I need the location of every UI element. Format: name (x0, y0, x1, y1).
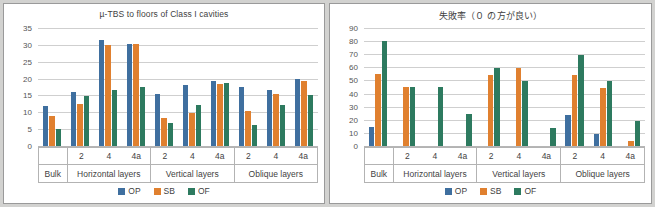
axis-group-label: Bulk (364, 164, 393, 183)
y-tick-label: 50 (349, 76, 358, 85)
y-tick-label: 90 (349, 24, 358, 33)
axis-group-label: Bulk (38, 164, 67, 183)
legend-item[interactable]: OP (118, 186, 140, 196)
y-axis-labels-right: 0102030405060708090 (330, 28, 360, 146)
bar-sb (600, 88, 606, 146)
legend-swatch-icon (188, 188, 195, 195)
bar-of (494, 68, 500, 146)
axis-sub-label: 4 (262, 147, 290, 164)
axis-sub-label: 4 (179, 147, 207, 164)
axis-sub-label: 4a (616, 147, 645, 164)
bar-sb (628, 141, 634, 147)
legend-label: OP (128, 186, 140, 196)
bar-of (280, 105, 286, 146)
y-tick-label: 0 (354, 142, 358, 151)
y-tick-label: 25 (23, 57, 32, 66)
category-axis-grouprow-right: BulkHorizontal layersVertical layersObli… (364, 164, 645, 183)
legend-label: SB (490, 186, 501, 196)
y-tick-label: 30 (23, 40, 32, 49)
axis-sub-label: 4 (95, 147, 123, 164)
y-tick-label: 0 (28, 142, 32, 151)
axis-sub-label: 4a (206, 147, 234, 164)
bar-op (211, 81, 217, 146)
bar-of (522, 81, 528, 146)
axis-sub-label: 4 (421, 147, 449, 164)
y-tick-label: 40 (349, 89, 358, 98)
legend-item[interactable]: SB (480, 186, 501, 196)
bar-of (308, 95, 314, 146)
axis-group-label: Horizontal layers (67, 164, 151, 183)
axis-sub-label: 4 (589, 147, 617, 164)
axis-sub-label (364, 147, 393, 164)
legend-swatch-icon (154, 188, 161, 195)
bar-sb (403, 87, 409, 146)
bar-groups-right (364, 28, 645, 146)
bar-op (155, 94, 161, 146)
bar-of (84, 96, 90, 146)
axis-sub-label: 2 (150, 147, 179, 164)
bar-sb (105, 45, 111, 146)
bar-sb (273, 94, 279, 146)
category-axis-subrow-left: 244a244a244a (38, 147, 318, 164)
legend-item[interactable]: OP (445, 186, 467, 196)
bar-of (635, 121, 641, 146)
bar-of (252, 125, 258, 146)
bar-of (224, 83, 230, 146)
bar-sb (488, 75, 494, 146)
y-tick-label: 15 (23, 91, 32, 100)
legend-swatch-icon (480, 188, 487, 195)
category-axis-right: 244a244a244a BulkHorizontal layersVertic… (364, 147, 645, 183)
bar-group (392, 28, 420, 146)
axis-group-label: Oblique layers (234, 164, 319, 183)
axis-group-label: Vertical layers (150, 164, 234, 183)
bar-of (56, 129, 62, 146)
legend-label: OF (198, 186, 210, 196)
bar-op (43, 106, 49, 146)
y-tick-label: 70 (349, 50, 358, 59)
bar-of (168, 123, 174, 146)
axis-sub-label: 2 (234, 147, 263, 164)
axis-sub-label: 4a (533, 147, 561, 164)
bar-group (533, 28, 561, 146)
bar-of (410, 87, 416, 146)
y-tick-label: 35 (23, 24, 32, 33)
bar-group (94, 28, 122, 146)
legend-swatch-icon (514, 188, 521, 195)
bar-sb (375, 74, 381, 146)
bar-sb (245, 111, 251, 146)
bar-of (140, 87, 146, 146)
bar-group (476, 28, 504, 146)
bar-sb (49, 116, 55, 146)
legend-label: SB (164, 186, 175, 196)
bar-group (66, 28, 94, 146)
axis-sub-label: 2 (393, 147, 422, 164)
y-axis-labels-left: 05101520253035 (4, 28, 34, 146)
bar-sb (572, 75, 578, 146)
bar-sb (301, 81, 307, 146)
bar-op (565, 115, 571, 146)
legend-item[interactable]: OF (188, 186, 210, 196)
bar-of (112, 90, 118, 146)
category-axis-left: 244a244a244a BulkHorizontal layersVertic… (38, 147, 318, 183)
legend-item[interactable]: SB (154, 186, 175, 196)
legend-label: OF (524, 186, 536, 196)
chart-panel-right: 失敗率（０ の方が良い） 0102030405060708090 244a244… (329, 3, 652, 204)
bar-group (262, 28, 290, 146)
bar-sb (161, 118, 167, 146)
bar-sb (77, 104, 83, 146)
legend-swatch-icon (445, 188, 452, 195)
bar-group (561, 28, 589, 146)
chart-title-right: 失敗率（０ の方が良い） (330, 9, 651, 22)
bar-group (420, 28, 448, 146)
bar-sb (133, 44, 139, 146)
figure-root: µ-TBS to floors of Class I cavities 0510… (0, 0, 655, 207)
legend-swatch-icon (118, 188, 125, 195)
plot-area-right (364, 28, 645, 146)
category-axis-grouprow-left: BulkHorizontal layersVertical layersObli… (38, 164, 318, 183)
plot-area-left (38, 28, 318, 146)
bar-group (150, 28, 178, 146)
bar-of (578, 55, 584, 146)
y-tick-label: 10 (349, 128, 358, 137)
bar-group (290, 28, 318, 146)
legend-item[interactable]: OF (514, 186, 536, 196)
